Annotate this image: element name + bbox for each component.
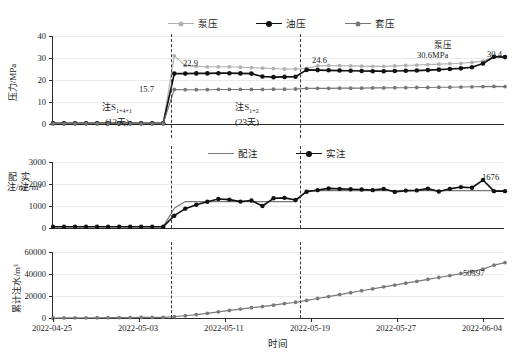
xtick-label-3: 2022-05-19	[290, 323, 330, 333]
ytick-label-c-40000: 40000	[12, 269, 46, 279]
ytick-label-i-3000: 3000	[16, 157, 46, 167]
panel-injection: 实注/m³ 配注/m³ 3000 2000 1000 0 1676	[0, 160, 522, 240]
annotation-peak-304: 30.4	[487, 49, 502, 59]
ytick-label-c-20000: 20000	[12, 291, 46, 301]
phase-label-1-line2: (12天)	[105, 117, 129, 127]
phase-divider-2-injection	[300, 146, 301, 228]
axis-title-time: 时间	[268, 336, 288, 350]
xtick-label-4: 2022-05-27	[376, 323, 416, 333]
ytick-label-p-0: 0	[22, 119, 46, 129]
ytick-label-i-0: 0	[16, 223, 46, 233]
xtick-4	[397, 318, 398, 322]
axis-title-pressure: 压力/MPa	[6, 53, 19, 113]
phase-label-2-line1: 注S	[235, 102, 249, 112]
phase-label-2-sub: 1+2	[249, 108, 258, 114]
legend-label-planned-injection: 配注	[238, 146, 258, 160]
series-canvas-cumulative	[53, 252, 505, 318]
legend-swatch-oil-pressure	[256, 23, 282, 24]
plot-area-injection	[52, 162, 504, 228]
figure-root: 泵压 油压 套压 压力/MPa 40 30 20 10 0	[0, 0, 522, 364]
phase-label-2-line2: (23天)	[235, 117, 259, 127]
ytick-label-p-10: 10	[22, 97, 46, 107]
ytick-label-p-40: 40	[22, 31, 46, 41]
annotation-pump-306mpa: 30.6MPa	[417, 50, 448, 60]
legend-item-pump-pressure: 泵压	[168, 16, 218, 30]
phase-label-2: 注S1+2 (23天)	[235, 102, 259, 128]
ytick-label-p-20: 20	[22, 75, 46, 85]
legend-item-actual-injection: 实注	[296, 146, 346, 160]
phase-label-1-line1: 注S	[102, 102, 116, 112]
annotation-oil-229: 22.9	[183, 58, 198, 68]
panel-pressure: 压力/MPa 40 30 20 10 0 15.7 22.9 24.6 30.4…	[0, 34, 522, 138]
annotation-cumulative-50397: 50397	[463, 268, 484, 278]
phase-divider-1-pressure	[171, 34, 172, 138]
phase-divider-1-cumulative	[171, 242, 172, 318]
legend-item-oil-pressure: 油压	[256, 16, 306, 30]
xtick-1	[139, 318, 140, 322]
xtick-3	[311, 318, 312, 322]
phase-label-1: 注S1+4+1 (12天)	[102, 102, 132, 128]
xtick-5	[483, 318, 484, 322]
ytick-label-i-2000: 2000	[16, 179, 46, 189]
phase-divider-1-injection	[171, 146, 172, 228]
phase-divider-2-pressure	[300, 34, 301, 138]
phase-label-1-sub: 1+4+1	[116, 108, 132, 114]
panel-cumulative: 累计注水/m³ 60000 40000 20000 0 50397 2022-0…	[0, 250, 522, 340]
legend-swatch-casing-pressure	[345, 23, 371, 24]
annotation-actual-1676: 1676	[482, 172, 499, 182]
xtick-label-2: 2022-05-11	[204, 323, 244, 333]
xtick-0	[53, 318, 54, 322]
phase-divider-2-cumulative	[300, 242, 301, 318]
plot-area-cumulative	[52, 252, 504, 318]
legend-item-casing-pressure: 套压	[345, 16, 395, 30]
legend-item-planned-injection: 配注	[208, 146, 258, 160]
annotation-pump-label: 泵压	[434, 38, 452, 50]
legend-label-pump-pressure: 泵压	[198, 16, 218, 30]
xtick-label-0: 2022-04-25	[32, 323, 72, 333]
xtick-label-1: 2022-05-03	[118, 323, 158, 333]
ytick-label-c-0: 0	[12, 313, 46, 323]
ytick-label-c-60000: 60000	[12, 247, 46, 257]
annotation-oil-246: 24.6	[312, 55, 327, 65]
legend-swatch-planned-injection	[208, 153, 234, 154]
series-canvas-injection	[53, 162, 505, 228]
legend-label-oil-pressure: 油压	[286, 16, 306, 30]
xtick-label-5: 2022-06-04	[462, 323, 502, 333]
ytick-label-p-30: 30	[22, 53, 46, 63]
annotation-casing-157: 15.7	[139, 84, 154, 94]
legend-swatch-pump-pressure	[168, 23, 194, 24]
xtick-2	[225, 318, 226, 322]
legend-label-actual-injection: 实注	[326, 146, 346, 160]
ytick-label-i-1000: 1000	[16, 201, 46, 211]
legend-label-casing-pressure: 套压	[375, 16, 395, 30]
